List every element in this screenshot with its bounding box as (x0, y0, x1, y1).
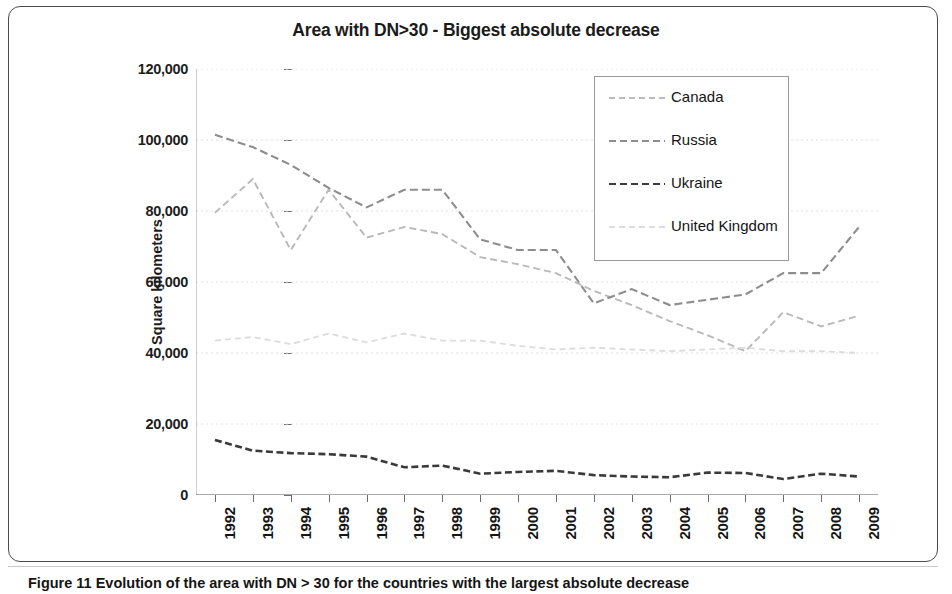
legend-label-canada: Canada (665, 87, 724, 106)
y-tick-label: 20,000 (98, 416, 188, 432)
x-tick-label: 1994 (297, 507, 314, 540)
x-tick-mark (329, 495, 330, 502)
x-tick-mark (253, 495, 254, 502)
y-axis-ticks: 120,000100,00080,00060,00040,00020,0000 (96, 69, 188, 495)
legend-label-ukraine: Ukraine (665, 173, 723, 192)
legend-item-ukraine[interactable]: Ukraine (595, 173, 788, 216)
x-tick-label: 1999 (486, 507, 503, 540)
x-tick-mark (556, 495, 557, 502)
x-tick-label: 1993 (259, 507, 276, 540)
series-line-ukraine (215, 440, 859, 479)
y-tick-label: 0 (98, 487, 188, 503)
legend-line-swatch-icon (609, 96, 665, 100)
x-tick-mark (708, 495, 709, 502)
x-tick-label: 1997 (410, 507, 427, 540)
x-tick-label: 2001 (562, 507, 579, 540)
y-tick-label: 80,000 (98, 203, 188, 219)
x-tick-mark (480, 495, 481, 502)
series-line-united-kingdom (215, 333, 859, 353)
x-tick-mark (215, 495, 216, 502)
y-tick-label: 60,000 (98, 274, 188, 290)
legend-item-canada[interactable]: Canada (595, 87, 788, 130)
legend-item-united-kingdom[interactable]: United Kingdom (595, 216, 788, 259)
legend-label-united-kingdom: United Kingdom (665, 216, 778, 235)
legend-label-russia: Russia (665, 130, 717, 149)
x-tick-label: 2009 (865, 507, 882, 540)
caption-divider (8, 566, 938, 567)
chart-title: Area with DN>30 - Biggest absolute decre… (0, 20, 952, 41)
x-tick-mark (670, 495, 671, 502)
x-tick-mark (783, 495, 784, 502)
y-tick-label: 40,000 (98, 345, 188, 361)
x-tick-mark (367, 495, 368, 502)
x-tick-mark (442, 495, 443, 502)
x-tick-label: 1998 (448, 507, 465, 540)
y-tick-label: 120,000 (98, 61, 188, 77)
x-tick-label: 2008 (827, 507, 844, 540)
x-tick-label: 2005 (714, 507, 731, 540)
x-tick-mark (518, 495, 519, 502)
x-tick-label: 1992 (221, 507, 238, 540)
x-tick-label: 1995 (335, 507, 352, 540)
x-tick-label: 2004 (676, 507, 693, 540)
legend-line-swatch-icon (609, 182, 665, 186)
legend-line-swatch-icon (609, 225, 665, 229)
x-tick-mark (859, 495, 860, 502)
x-tick-mark (594, 495, 595, 502)
x-tick-mark (821, 495, 822, 502)
x-tick-mark (404, 495, 405, 502)
x-tick-mark (632, 495, 633, 502)
legend-line-swatch-icon (609, 139, 665, 143)
figure-caption: Figure 11 Evolution of the area with DN … (28, 575, 928, 591)
x-tick-label: 2003 (638, 507, 655, 540)
x-tick-mark (745, 495, 746, 502)
x-tick-mark (291, 495, 292, 502)
legend-item-russia[interactable]: Russia (595, 130, 788, 173)
x-tick-label: 2000 (524, 507, 541, 540)
x-tick-label: 2006 (751, 507, 768, 540)
y-tick-label: 100,000 (98, 132, 188, 148)
x-tick-label: 2007 (789, 507, 806, 540)
x-tick-label: 2002 (600, 507, 617, 540)
x-tick-label: 1996 (373, 507, 390, 540)
chart-legend[interactable]: Canada Russia Ukraine United Kingdom (594, 76, 789, 261)
